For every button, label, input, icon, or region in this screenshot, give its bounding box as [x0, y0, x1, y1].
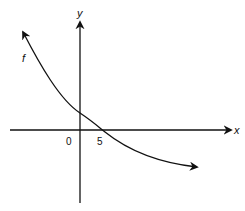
graph-canvas: x y f 0 5 — [0, 0, 245, 211]
x-tick-label-5: 5 — [97, 136, 103, 147]
origin-label: 0 — [66, 136, 72, 147]
curve-f — [23, 32, 197, 167]
x-axis-label: x — [233, 124, 240, 136]
curve-label-f: f — [22, 52, 26, 64]
y-axis-label: y — [76, 7, 84, 19]
